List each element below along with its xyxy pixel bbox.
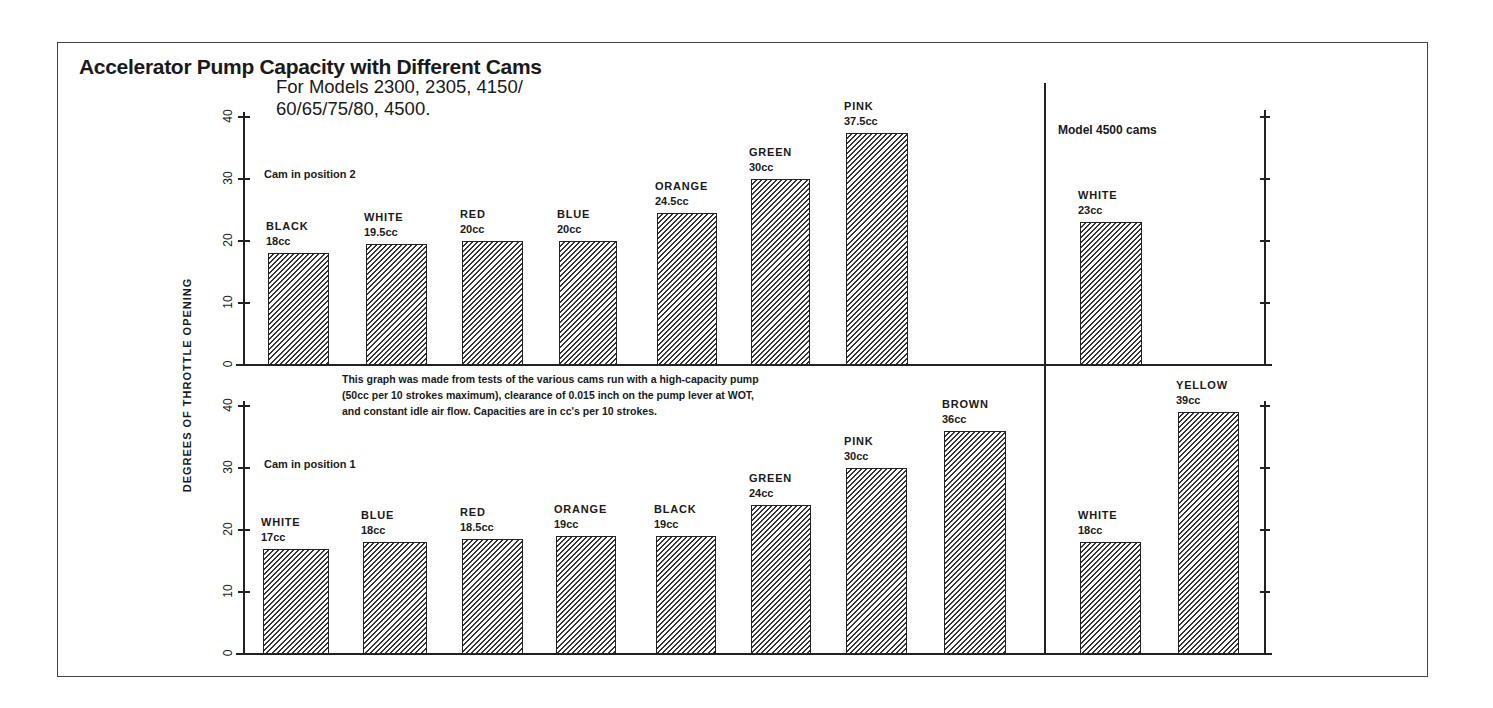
bottom-bar-yellow [1178, 412, 1239, 654]
top-tick-label: 0 [221, 354, 235, 374]
top-bar-label: WHITE23cc [1078, 188, 1117, 218]
bottom-bar-orange [556, 536, 616, 654]
bar-value: 19cc [554, 517, 607, 532]
bar-value: 23cc [1078, 203, 1117, 218]
bar-value: 19.5cc [364, 225, 403, 240]
top-panel-label: Cam in position 2 [264, 168, 356, 180]
top-bar-label: BLACK18cc [266, 219, 309, 249]
bottom-right-tick-30 [1260, 467, 1270, 469]
top-y-axis [243, 112, 245, 366]
top-tick-10 [238, 302, 250, 304]
bar-value: 36cc [942, 412, 989, 427]
bar-name: YELLOW [1176, 378, 1228, 393]
bottom-bar-label: ORANGE19cc [554, 502, 607, 532]
top-bar-label: BLUE20cc [557, 207, 590, 237]
bar-value: 39cc [1176, 393, 1228, 408]
top-bar-label: GREEN30cc [749, 145, 792, 175]
bar-value: 20cc [557, 222, 590, 237]
bottom-bar-label: GREEN24cc [749, 471, 792, 501]
bottom-bar-label: PINK30cc [844, 434, 873, 464]
top-right-tick-10 [1260, 302, 1270, 304]
bottom-tick-10 [238, 591, 250, 593]
bottom-bar-label: WHITE17cc [261, 515, 300, 545]
bar-name: WHITE [1078, 508, 1117, 523]
bottom-tick-label: 40 [221, 395, 235, 415]
y-axis-label: DEGREES OF THROTTLE OPENING [181, 278, 193, 493]
top-bar-pink [846, 133, 908, 366]
bar-value: 19cc [654, 517, 697, 532]
bar-name: BLUE [361, 508, 394, 523]
top-bar-white [1080, 222, 1142, 365]
bottom-right-tick-20 [1260, 529, 1270, 531]
bottom-tick-40 [238, 405, 250, 407]
top-bar-red [462, 241, 523, 365]
bottom-bar-white [263, 549, 329, 654]
bottom-bar-label: WHITE18cc [1078, 508, 1117, 538]
top-bar-label: RED20cc [460, 207, 486, 237]
bottom-tick-30 [238, 467, 250, 469]
bar-name: BLACK [266, 219, 309, 234]
bottom-bar-brown [944, 431, 1006, 654]
bar-name: PINK [844, 434, 873, 449]
bar-name: BLUE [557, 207, 590, 222]
top-tick-40 [238, 116, 250, 118]
top-tick-20 [238, 240, 250, 242]
bar-name: PINK [844, 99, 878, 114]
bar-value: 18cc [361, 523, 394, 538]
bar-name: WHITE [1078, 188, 1117, 203]
bottom-tick-20 [238, 529, 250, 531]
bottom-y-axis [243, 401, 245, 655]
bottom-tick-label: 20 [221, 519, 235, 539]
bar-name: BLACK [654, 502, 697, 517]
bottom-bar-label: RED18.5cc [460, 505, 494, 535]
bar-value: 24cc [749, 486, 792, 501]
bar-name: WHITE [261, 515, 300, 530]
bar-value: 20cc [460, 222, 486, 237]
bottom-tick-label: 10 [221, 581, 235, 601]
bar-value: 18cc [1078, 523, 1117, 538]
bar-name: RED [460, 505, 494, 520]
bar-name: GREEN [749, 145, 792, 160]
top-right-tick-20 [1260, 240, 1270, 242]
bar-name: ORANGE [554, 502, 607, 517]
bottom-bar-label: BLACK19cc [654, 502, 697, 532]
bottom-right-tick-40 [1260, 405, 1270, 407]
bar-value: 24.5cc [655, 194, 708, 209]
bottom-tick-label: 30 [221, 457, 235, 477]
bar-name: RED [460, 207, 486, 222]
bottom-right-axis [1264, 401, 1266, 654]
bottom-bar-label: YELLOW39cc [1176, 378, 1228, 408]
bar-value: 18cc [266, 234, 309, 249]
top-tick-label: 40 [221, 106, 235, 126]
top-bar-black [268, 253, 329, 365]
top-bar-label: PINK37.5cc [844, 99, 878, 129]
model-4500-label: Model 4500 cams [1058, 123, 1157, 137]
top-bar-label: WHITE19.5cc [364, 210, 403, 240]
top-tick-30 [238, 178, 250, 180]
top-bar-white [366, 244, 427, 365]
bottom-bar-green [751, 505, 811, 654]
model-4500-divider [1044, 83, 1046, 654]
bottom-bar-label: BROWN36cc [942, 397, 989, 427]
bar-name: GREEN [749, 471, 792, 486]
top-bar-green [751, 179, 810, 365]
bar-value: 17cc [261, 530, 300, 545]
bar-name: BROWN [942, 397, 989, 412]
top-bar-label: ORANGE24.5cc [655, 179, 708, 209]
top-tick-label: 30 [221, 168, 235, 188]
bottom-right-tick-10 [1260, 591, 1270, 593]
top-bar-blue [559, 241, 617, 365]
bottom-bar-white [1080, 542, 1141, 654]
top-right-tick-40 [1260, 116, 1270, 118]
top-tick-label: 20 [221, 230, 235, 250]
bar-value: 37.5cc [844, 114, 878, 129]
test-conditions-note: This graph was made from tests of the va… [342, 371, 822, 419]
bottom-panel-label: Cam in position 1 [264, 458, 356, 470]
bottom-tick-label: 0 [221, 643, 235, 663]
bar-name: ORANGE [655, 179, 708, 194]
top-bar-orange [657, 213, 717, 365]
top-tick-label: 10 [221, 292, 235, 312]
chart-subtitle: For Models 2300, 2305, 4150/ 60/65/75/80… [276, 76, 536, 120]
bottom-bar-pink [846, 468, 907, 654]
bottom-bar-red [462, 539, 523, 654]
